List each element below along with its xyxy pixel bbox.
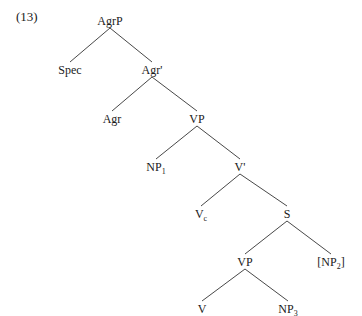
tree-node-agrp: AgrP — [97, 14, 122, 28]
tree-node-np3: NP3 — [278, 302, 297, 316]
tree-node-agr: Agr — [103, 112, 122, 126]
tree-node-vc: Vc — [195, 207, 207, 226]
tree-edge — [156, 126, 197, 159]
tree-edge — [112, 77, 152, 111]
tree-edge — [245, 221, 287, 254]
tree-node-np1: NP1 — [146, 160, 165, 179]
tree-edge — [245, 269, 288, 301]
tree-node-v: V — [198, 302, 207, 316]
tree-edge — [152, 77, 197, 111]
tree-node-agrbar: Agr' — [142, 63, 163, 77]
tree-edge — [201, 174, 240, 206]
tree-edge — [70, 28, 110, 62]
tree-node-vp2: VP — [237, 255, 252, 269]
tree-edge — [240, 174, 287, 206]
tree-node-s: S — [284, 207, 291, 221]
tree-node-spec: Spec — [58, 63, 81, 77]
tree-edge — [110, 28, 152, 62]
tree-node-vbar: V' — [235, 160, 246, 174]
tree-edge — [202, 269, 245, 301]
syntax-tree-edges — [0, 0, 362, 316]
tree-node-np2: [NP2] — [317, 255, 344, 274]
tree-edge — [287, 221, 331, 254]
tree-node-vp1: VP — [189, 112, 204, 126]
tree-edge — [197, 126, 240, 159]
